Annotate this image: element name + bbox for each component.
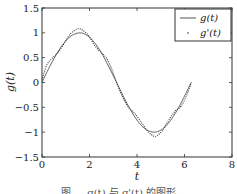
y-tick-label: −0.5 [15,102,39,113]
legend: g(t) g'(t) [175,9,231,41]
y-tick-label: −1 [24,127,39,138]
x-axis-label: t [135,170,140,183]
y-tick-label: 0 [33,77,39,88]
chart: 02468−1.5−1−0.500.511.5 t g(t) g(t) g'(t… [0,0,237,194]
plot-series [42,29,191,137]
figure-caption: 图 … g(t) 与 g'(t) 的图形 [0,184,237,194]
y-tick-label: 0.5 [23,52,39,63]
legend-dot-icon [187,32,189,34]
legend-label-g-prime: g'(t) [200,27,221,38]
x-tick-label: 6 [181,159,187,170]
x-tick-label: 2 [86,159,92,170]
y-tick-label: 1 [33,27,39,38]
x-tick-label: 4 [134,159,140,170]
series-g-prime-dotted [42,29,191,137]
y-axis-label: g(t) [4,72,17,92]
y-tick-label: −1.5 [15,152,39,163]
x-tick-label: 0 [39,159,45,170]
x-tick-label: 8 [229,159,235,170]
legend-label-g: g(t) [200,12,218,23]
y-tick-label: 1.5 [23,3,39,14]
